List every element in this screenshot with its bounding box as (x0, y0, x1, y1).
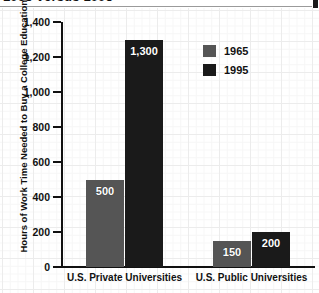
y-axis-tick (53, 161, 61, 163)
y-axis-tick-label: 1,200 (0, 51, 50, 63)
y-axis-tick-label: 0 (0, 261, 50, 273)
title-corner-mark (313, 0, 318, 8)
bar-value-label: 200 (252, 237, 290, 249)
legend: 19651995 (203, 45, 248, 83)
y-axis-tick (53, 21, 61, 23)
bar-1965-public[interactable]: 150 (213, 241, 251, 267)
y-axis-tick-label: 800 (0, 121, 50, 133)
bar-value-label: 500 (86, 185, 124, 197)
legend-item-1965[interactable]: 1965 (203, 45, 248, 57)
y-axis-tick (53, 91, 61, 93)
bar-1995-private[interactable]: 1,300 (125, 40, 163, 268)
bar-1965-private[interactable]: 500 (86, 180, 124, 268)
y-axis-tick-labels: 02004006008001,0001,2001,400 (0, 0, 59, 293)
y-axis-tick-label: 200 (0, 226, 50, 238)
bar-value-label: 150 (213, 246, 251, 258)
legend-swatch-icon (203, 45, 216, 57)
x-axis-label-public: U.S. Public Universities (188, 272, 315, 283)
y-axis-tick (53, 196, 61, 198)
bars-layer: 5001,300150200 (61, 22, 315, 267)
y-axis-tick-label: 1,000 (0, 86, 50, 98)
x-axis-label-private: U.S. Private Universities (61, 272, 188, 283)
legend-label: 1965 (224, 45, 248, 57)
legend-swatch-icon (203, 64, 216, 76)
y-axis-tick (53, 231, 61, 233)
y-axis-tick (53, 56, 61, 58)
bar-1995-public[interactable]: 200 (252, 232, 290, 267)
y-axis-tick-label: 1,400 (0, 16, 50, 28)
y-axis-tick-label: 400 (0, 191, 50, 203)
bar-value-label: 1,300 (125, 45, 163, 57)
legend-label: 1995 (224, 64, 248, 76)
y-axis-tick (53, 126, 61, 128)
legend-item-1995[interactable]: 1995 (203, 64, 248, 76)
y-axis-tick-label: 600 (0, 156, 50, 168)
y-axis-tick (53, 266, 61, 268)
